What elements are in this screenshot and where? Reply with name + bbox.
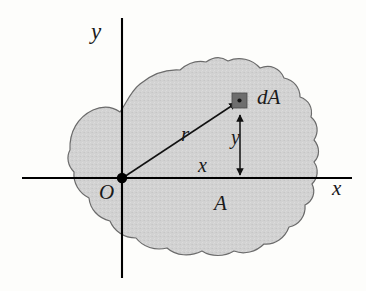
y-distance-label: y (231, 127, 240, 147)
x-distance-label: x (198, 155, 207, 175)
x-axis-label: x (332, 178, 341, 199)
area-label: A (214, 193, 227, 214)
y-axis-label: y (91, 20, 101, 43)
origin-point-dot (117, 173, 127, 183)
figure-container: y x O r x y A dA (0, 0, 366, 291)
origin-label: O (99, 182, 114, 203)
differential-element-center-dot (237, 98, 241, 102)
area-region-shape (68, 58, 319, 256)
differential-element-label: dA (257, 87, 280, 108)
radius-label: r (181, 124, 189, 145)
